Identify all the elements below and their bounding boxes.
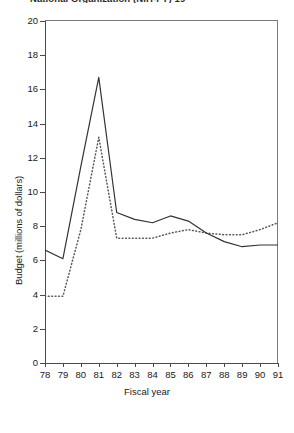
x-axis-tick-label: 82 [108, 369, 126, 380]
x-axis-tick-label: 86 [179, 369, 197, 380]
x-axis-title: Fiscal year [0, 386, 294, 397]
x-axis-tick-label: 88 [215, 369, 233, 380]
x-axis-tick [170, 363, 171, 367]
y-axis-tick-label: 12 [18, 153, 38, 163]
x-axis-tick [117, 363, 118, 367]
series-line-actual [45, 137, 278, 296]
chart-screenshot: National Organization (NIH-FY) 19 201816… [0, 0, 294, 433]
x-axis-tick-label: 85 [161, 369, 179, 380]
y-axis-tick [40, 55, 45, 56]
page-title: National Organization (NIH-FY) 19 [30, 0, 280, 3]
x-axis-tick [99, 363, 100, 367]
x-axis-tick [206, 363, 207, 367]
x-axis-tick-label: 91 [269, 369, 287, 380]
x-axis-tick [224, 363, 225, 367]
chart-legend: Actual Real purchasing power adjusted to… [0, 404, 294, 433]
x-axis-tick [81, 363, 82, 367]
x-axis-tick-label: 84 [144, 369, 162, 380]
y-axis-tick [40, 124, 45, 125]
y-axis-tick-label: 20 [18, 16, 38, 26]
y-axis-tick [40, 226, 45, 227]
x-axis-tick-label: 80 [72, 369, 90, 380]
x-axis-tick-label: 78 [36, 369, 54, 380]
x-axis-tick [135, 363, 136, 367]
x-axis-tick [63, 363, 64, 367]
x-axis-tick-label: 87 [197, 369, 215, 380]
y-axis-tick-label: 18 [18, 50, 38, 60]
x-axis-tick [260, 363, 261, 367]
x-axis-tick-label: 83 [126, 369, 144, 380]
y-axis-tick-label: 14 [18, 119, 38, 129]
x-axis-tick [153, 363, 154, 367]
y-axis-tick [40, 192, 45, 193]
y-axis-tick [40, 329, 45, 330]
series-canvas [45, 21, 278, 363]
x-axis-tick [278, 363, 279, 367]
x-axis-tick-label: 89 [233, 369, 251, 380]
y-axis-tick [40, 89, 45, 90]
y-axis-tick-label: 0 [18, 358, 38, 368]
y-axis-tick-label: 16 [18, 84, 38, 94]
y-axis-tick [40, 158, 45, 159]
line-chart-svg [45, 21, 278, 363]
y-axis-tick-label: 4 [18, 290, 38, 300]
y-axis-tick [40, 21, 45, 22]
x-axis-tick [45, 363, 46, 367]
y-axis-tick [40, 295, 45, 296]
x-axis-tick [188, 363, 189, 367]
x-axis-tick-label: 81 [90, 369, 108, 380]
y-axis-tick-label: 2 [18, 324, 38, 334]
x-axis-tick [242, 363, 243, 367]
y-axis-title: Budget (millions of dollars) [13, 176, 24, 285]
x-axis-tick-label: 79 [54, 369, 72, 380]
y-axis-tick [40, 260, 45, 261]
x-axis-tick-label: 90 [251, 369, 269, 380]
